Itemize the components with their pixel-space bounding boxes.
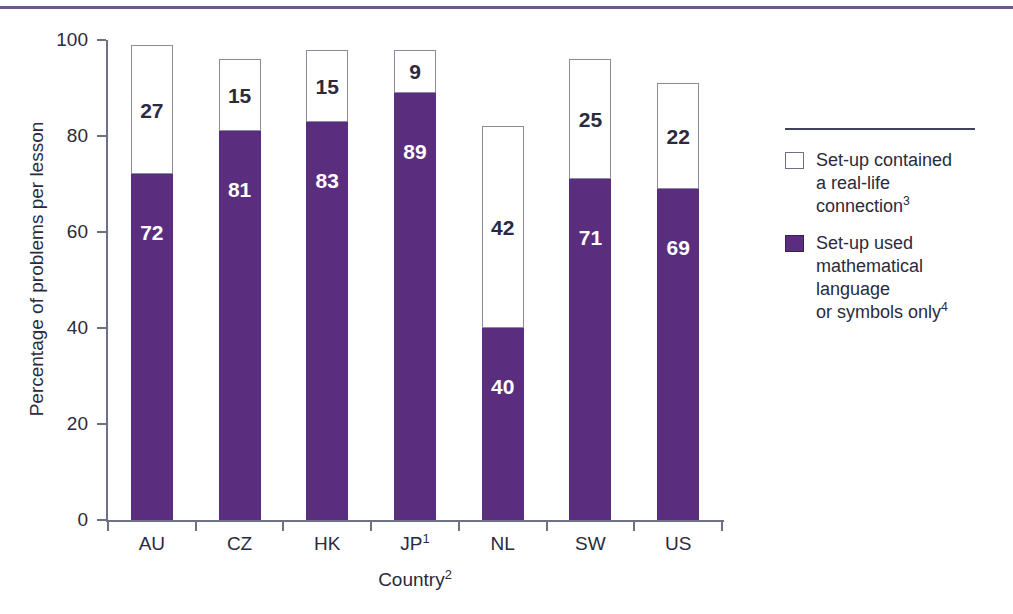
bar-segment-math-language-only: 89	[394, 93, 436, 520]
bar-value-label: 71	[579, 226, 602, 250]
y-axis-tick	[97, 135, 106, 137]
bar-segment-math-language-only: 40	[482, 328, 524, 520]
bar-group: 2772	[131, 45, 173, 520]
x-axis-tick	[370, 521, 372, 531]
bar-value-label: 83	[316, 169, 339, 193]
legend-item: Set-up containeda real-lifeconnection3	[785, 149, 985, 218]
x-axis-line	[106, 520, 724, 522]
bar-group: 4240	[482, 126, 524, 520]
bar-segment-real-life-connection: 22	[657, 83, 699, 189]
y-axis-tick-label: 100	[38, 29, 88, 51]
x-axis-tick	[282, 521, 284, 531]
chart-legend: Set-up containeda real-lifeconnection3Se…	[785, 128, 985, 338]
x-axis-tick	[721, 521, 723, 531]
bar-segment-real-life-connection: 25	[569, 59, 611, 179]
x-axis-tick-label: SW	[575, 533, 606, 555]
y-axis-tick	[97, 423, 106, 425]
bar-segment-real-life-connection: 42	[482, 126, 524, 328]
bar-value-label: 42	[491, 216, 514, 240]
bar-segment-math-language-only: 83	[306, 122, 348, 520]
bar-value-label: 9	[409, 60, 421, 84]
bar-segment-real-life-connection: 9	[394, 50, 436, 93]
x-axis-title: Country2	[108, 569, 722, 591]
bar-value-label: 27	[140, 99, 163, 123]
x-axis-tick-label: AU	[139, 533, 165, 555]
bar-value-label: 81	[228, 178, 251, 202]
bar-segment-real-life-connection: 15	[306, 50, 348, 122]
bar-value-label: 15	[228, 84, 251, 108]
bar-group: 1581	[219, 59, 261, 520]
x-axis-tick	[546, 521, 548, 531]
x-axis-tick-label: JP1	[400, 533, 429, 555]
bar-value-label: 89	[403, 140, 426, 164]
legend-label: Set-up usedmathematicallanguageor symbol…	[816, 232, 948, 324]
bar-value-label: 22	[666, 125, 689, 149]
x-axis-tick	[195, 521, 197, 531]
y-axis-tick	[97, 327, 106, 329]
x-axis-tick-label: NL	[491, 533, 515, 555]
x-axis-tick-label: US	[665, 533, 691, 555]
bar-group: 2269	[657, 83, 699, 520]
bar-segment-math-language-only: 81	[219, 131, 261, 520]
bar-segment-math-language-only: 69	[657, 189, 699, 520]
legend-label: Set-up containeda real-lifeconnection3	[816, 149, 952, 218]
bar-segment-math-language-only: 72	[131, 174, 173, 520]
stacked-bar-chart: 020406080100 AUCZHKJP1NLSWUS 27721581158…	[0, 0, 760, 614]
bar-value-label: 15	[316, 75, 339, 99]
y-axis-tick	[97, 519, 106, 521]
bar-group: 2571	[569, 59, 611, 520]
bar-value-label: 69	[666, 236, 689, 260]
bar-segment-real-life-connection: 27	[131, 45, 173, 175]
bar-group: 1583	[306, 50, 348, 520]
bar-value-label: 40	[491, 375, 514, 399]
y-axis-tick-label: 0	[38, 509, 88, 531]
y-axis-tick	[97, 231, 106, 233]
y-axis-title: Percentage of problems per lesson	[26, 69, 48, 469]
legend-item: Set-up usedmathematicallanguageor symbol…	[785, 232, 985, 324]
x-axis-tick	[458, 521, 460, 531]
y-axis-tick	[97, 39, 106, 41]
legend-items: Set-up containeda real-lifeconnection3Se…	[785, 149, 985, 324]
legend-divider-rule	[785, 128, 975, 130]
bar-segment-math-language-only: 71	[569, 179, 611, 520]
legend-swatch-purple	[785, 235, 804, 252]
x-axis-tick	[107, 521, 109, 531]
x-axis-tick-label: CZ	[227, 533, 252, 555]
bar-group: 989	[394, 50, 436, 520]
bar-value-label: 72	[140, 221, 163, 245]
x-axis-tick	[633, 521, 635, 531]
legend-swatch-white	[785, 152, 804, 169]
x-axis-tick-label: HK	[314, 533, 340, 555]
y-axis-line	[106, 40, 108, 521]
bar-segment-real-life-connection: 15	[219, 59, 261, 131]
bar-value-label: 25	[579, 108, 602, 132]
